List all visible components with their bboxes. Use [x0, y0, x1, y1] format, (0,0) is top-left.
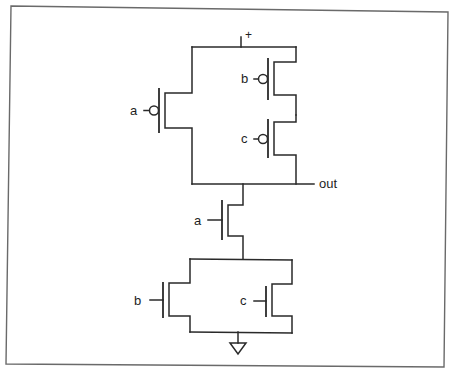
pulldown-bottom-rail [190, 332, 292, 333]
nmos-c-channel [272, 260, 292, 333]
pmos-c-inversion-bubble-icon [259, 135, 268, 144]
vdd-label: + [245, 28, 252, 42]
pmos-a-inversion-bubble-icon [150, 106, 159, 115]
pmos-b-label: b [241, 71, 248, 86]
pmos-a-transistor: a [130, 47, 192, 184]
nmos-c-transistor: c [240, 260, 292, 333]
ground-triangle-icon [230, 343, 246, 354]
nmos-a-label: a [194, 213, 202, 228]
nmos-b-label: b [134, 293, 141, 308]
pmos-a-label: a [130, 103, 138, 118]
diagram-frame [6, 6, 448, 367]
pmos-b-channel [274, 47, 296, 115]
nmos-c-label: c [240, 293, 247, 308]
pmos-b-inversion-bubble-icon [259, 75, 268, 84]
pmos-c-channel [274, 115, 296, 184]
pmos-b-transistor: b [241, 47, 296, 115]
pmos-c-label: c [241, 131, 248, 146]
ground-symbol-icon [230, 332, 246, 354]
nmos-b-transistor: b [134, 259, 190, 332]
pmos-a-channel [165, 47, 192, 184]
pulldown-top-rail [190, 259, 292, 260]
nmos-a-transistor: a [194, 184, 243, 259]
vdd-supply: + [192, 28, 296, 47]
nmos-a-channel [228, 184, 243, 259]
output-label: out [319, 176, 337, 191]
pmos-c-transistor: c [241, 115, 296, 184]
nmos-b-channel [169, 259, 190, 332]
output-node: out [192, 176, 337, 191]
circuit-diagram: + a b c out a [0, 0, 452, 369]
